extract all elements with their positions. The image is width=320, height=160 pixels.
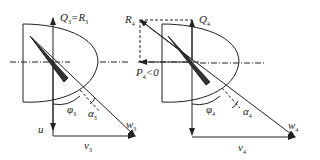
right-R-label: R4	[125, 14, 135, 27]
right-v-label: v4	[238, 142, 246, 155]
left-u-label: u	[38, 124, 44, 135]
left-phi-label: φ3	[67, 104, 76, 117]
right-phi-label: φ4	[206, 104, 215, 117]
right-P-label: P4<0	[136, 67, 159, 80]
right-w-label: w4	[288, 120, 298, 133]
right-alpha-label: α4	[243, 106, 252, 119]
right-Q-label: Q4	[199, 14, 210, 27]
left-w-label: w3	[126, 119, 136, 132]
left-alpha-label: α3	[88, 108, 97, 121]
left-v-label: v3	[84, 140, 92, 153]
left-top-label: Q3=R3	[60, 12, 88, 25]
